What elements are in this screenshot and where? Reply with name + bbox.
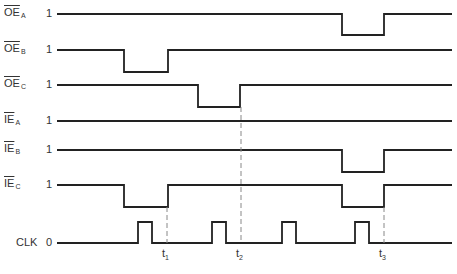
- level-label-clk: 0: [46, 236, 52, 248]
- signal-label-clk: CLK: [16, 236, 37, 248]
- level-label-ie_c: 1: [46, 178, 52, 190]
- signal-name: IE: [4, 142, 14, 154]
- waveform-ie_b: [57, 150, 452, 172]
- signal-subscript: A: [15, 119, 20, 126]
- level-label-oe_a: 1: [46, 7, 52, 19]
- signal-name: OE: [4, 6, 20, 18]
- level-label-oe_c: 1: [46, 78, 52, 90]
- signal-subscript: A: [21, 12, 26, 19]
- signal-name: IE: [4, 177, 14, 189]
- signal-label-oe_a: OEA: [4, 6, 26, 19]
- time-marker-subscript: 2: [239, 254, 243, 261]
- signal-name: IE: [4, 113, 14, 125]
- waveform-oe_c: [57, 85, 452, 107]
- timing-diagram: [0, 0, 457, 274]
- signal-label-ie_c: IEC: [4, 177, 20, 190]
- waveform-ie_c: [57, 185, 452, 207]
- signal-subscript: C: [15, 183, 20, 190]
- time-marker-subscript: 1: [165, 254, 169, 261]
- level-label-oe_b: 1: [46, 43, 52, 55]
- signal-name: OE: [4, 77, 20, 89]
- signal-label-ie_b: IEB: [4, 142, 20, 155]
- signal-name: OE: [4, 42, 20, 54]
- signal-subscript: B: [21, 48, 26, 55]
- level-label-ie_b: 1: [46, 143, 52, 155]
- signal-subscript: C: [21, 83, 26, 90]
- time-marker-label-t3: t3: [379, 247, 386, 261]
- signal-label-ie_a: IEA: [4, 113, 20, 126]
- signal-label-oe_c: OEC: [4, 77, 26, 90]
- waveform-oe_a: [57, 14, 452, 35]
- waveform-clk: [57, 222, 452, 243]
- signal-label-oe_b: OEB: [4, 42, 26, 55]
- time-marker-subscript: 3: [382, 254, 386, 261]
- level-label-ie_a: 1: [46, 114, 52, 126]
- waveform-oe_b: [57, 50, 452, 72]
- time-marker-label-t1: t1: [162, 247, 169, 261]
- time-marker-label-t2: t2: [236, 247, 243, 261]
- signal-subscript: B: [15, 148, 20, 155]
